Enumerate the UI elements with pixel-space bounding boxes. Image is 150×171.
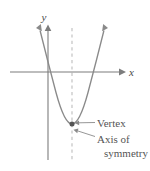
x-axis-arrowhead-icon bbox=[119, 69, 126, 76]
figure-canvas: y x Vertex Axis of symmetry bbox=[0, 0, 150, 171]
vertex-point-marker bbox=[70, 122, 75, 127]
parabola-figure: y x Vertex Axis of symmetry bbox=[0, 0, 150, 171]
y-axis-label: y bbox=[41, 11, 47, 23]
y-axis-arrowhead-icon bbox=[45, 25, 52, 32]
parabola-right-arrowhead-icon bbox=[102, 24, 108, 31]
vertex-label: Vertex bbox=[97, 117, 126, 129]
axis-of-symmetry-label-line1: Axis of bbox=[97, 133, 130, 145]
axis-leader-line bbox=[78, 131, 95, 137]
axis-of-symmetry-label-line2: symmetry bbox=[104, 147, 148, 159]
axis-leader-arrowhead-icon bbox=[73, 129, 78, 134]
parabola-curve bbox=[40, 31, 104, 124]
parabola-left-arrowhead-icon bbox=[36, 24, 42, 31]
x-axis-label: x bbox=[128, 66, 134, 78]
